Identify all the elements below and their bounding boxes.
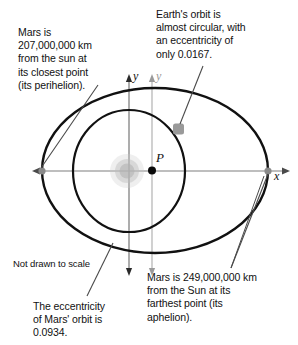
y-axis-light-label: y [156,69,161,84]
sun-marker [110,154,144,188]
perihelion-vertex-marker [38,167,45,174]
y-axis-dark-label: y [133,69,138,84]
figure-canvas: Mars is 207,000,000 km from the sun at i… [0,0,298,345]
callout-aphelion: Mars is 249,000,000 km from the Sun at i… [147,271,295,324]
x-axis [32,168,290,175]
center-point-marker [148,167,156,175]
leader-aphelion-b [231,176,264,268]
earth-marker [173,124,184,135]
callout-perihelion: Mars is 207,000,000 km from the sun at i… [18,26,128,92]
callout-mars-eccentricity: The eccentricity of Mars' orbit is 0.093… [33,300,145,340]
callout-earth-orbit: Earth's orbit is almost circular, with a… [156,8,288,61]
y-axis-light [149,74,155,276]
x-axis-label: x [274,169,279,184]
center-point-label: P [156,150,164,166]
aphelion-vertex-marker [264,167,271,174]
not-drawn-to-scale-note: Not drawn to scale [13,258,133,270]
